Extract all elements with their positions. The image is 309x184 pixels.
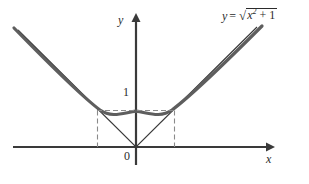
radical-group: √x2 + 1 <box>238 9 277 22</box>
radicand: x2 + 1 <box>246 8 277 21</box>
radical-sign-icon: √ <box>239 8 246 23</box>
radicand-constant: 1 <box>269 8 275 22</box>
equation-equals: = <box>227 9 238 23</box>
math-figure: y x 1 0 y=√x2 + 1 <box>0 0 309 184</box>
curve-equation-label: y=√x2 + 1 <box>222 9 277 22</box>
x-axis-label: x <box>266 153 271 165</box>
plot-canvas <box>0 0 309 184</box>
y-tick-label-1: 1 <box>123 86 129 98</box>
y-axis <box>132 13 141 165</box>
x-axis <box>13 143 275 152</box>
origin-label: 0 <box>124 150 130 162</box>
radicand-plus: + <box>257 8 270 22</box>
asymptote-lines <box>18 27 257 147</box>
curve-sqrt-x2-plus-1 <box>14 26 262 114</box>
y-axis-label: y <box>118 14 123 26</box>
